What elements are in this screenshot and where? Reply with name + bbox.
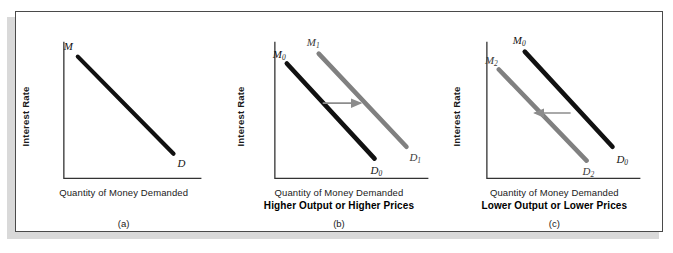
panel-a-xlabel: Quantity of Money Demanded [16, 186, 231, 199]
panel-b-label-d1: D1 [409, 151, 422, 164]
panel-a-caption: (a) [16, 218, 231, 229]
panel-c-xlabel: Quantity of Money Demanded [447, 186, 662, 199]
panel-a-xlabel-block: Quantity of Money Demanded [16, 186, 231, 199]
panel-c-curve-m0d0 [524, 52, 612, 147]
panel-a-ylabel-text: Interest Rate [20, 86, 31, 146]
panel-b-xlabel: Quantity of Money Demanded [231, 186, 446, 199]
panel-a-plot: M D Interest Rate Quantity of Money Dema… [16, 12, 231, 231]
panel-b: M0 M1 D0 D1 Interest Rate [231, 12, 446, 231]
panel-row: M D Interest Rate Quantity of Money Dema… [16, 12, 662, 231]
panel-b-curve-m1d1 [319, 54, 407, 147]
panel-c-xlabel-block: Quantity of Money Demanded Lower Output … [447, 186, 662, 212]
panel-a-label-m: M [63, 40, 74, 52]
panel-c-ylabel-text: Interest Rate [450, 86, 461, 146]
panel-b-label-m0: M0 [272, 48, 286, 61]
panel-c-label-d2: D2 [581, 165, 594, 178]
panel-c-plot: M0 M2 D2 D0 Interest Rate [447, 12, 662, 231]
panel-a: M D Interest Rate Quantity of Money Dema… [16, 12, 231, 231]
panel-c-label-m2: M2 [484, 54, 498, 67]
panel-b-curve-m0d0 [287, 64, 375, 159]
panel-b-plot: M0 M1 D0 D1 Interest Rate [231, 12, 446, 231]
panel-a-ylabel: Interest Rate [16, 56, 34, 176]
figure-frame: M D Interest Rate Quantity of Money Dema… [15, 11, 663, 232]
panel-c-caption: (c) [447, 218, 662, 229]
panel-c-label-m0: M0 [511, 34, 525, 47]
panel-c-label-d0: D0 [615, 153, 628, 166]
panel-b-xlabel-bold: Higher Output or Higher Prices [231, 199, 446, 212]
panel-c-curve-m2d2 [498, 69, 586, 160]
panel-b-ylabel: Interest Rate [231, 56, 249, 176]
panel-a-label-d: D [176, 157, 185, 169]
panel-b-label-m1: M1 [306, 36, 320, 49]
panel-b-label-d0: D0 [370, 164, 383, 177]
money-demand-figure: M D Interest Rate Quantity of Money Dema… [0, 0, 673, 253]
panel-b-xlabel-block: Quantity of Money Demanded Higher Output… [231, 186, 446, 212]
panel-b-axes [275, 42, 429, 179]
panel-c-ylabel: Interest Rate [447, 56, 465, 176]
panel-c-xlabel-bold: Lower Output or Lower Prices [447, 199, 662, 212]
panel-a-curve-md [78, 57, 174, 154]
panel-b-caption: (b) [231, 218, 446, 229]
panel-b-ylabel-text: Interest Rate [235, 86, 246, 146]
panel-c: M0 M2 D2 D0 Interest Rate [447, 12, 662, 231]
